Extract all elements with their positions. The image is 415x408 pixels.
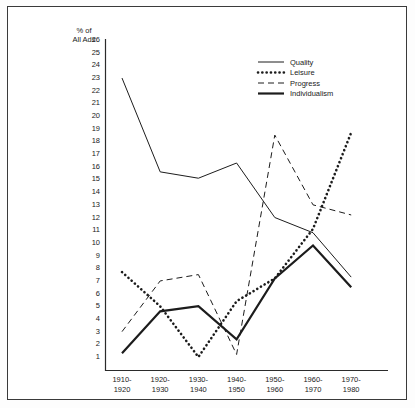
legend-label-leisure: Leisure bbox=[290, 68, 315, 77]
y-tick-label: 13 bbox=[84, 201, 100, 209]
y-tick-label: 23 bbox=[84, 74, 100, 82]
y-tick-label: 4 bbox=[84, 315, 100, 323]
y-tick-label: 9 bbox=[84, 252, 100, 260]
y-tick-label: 5 bbox=[84, 302, 100, 310]
y-tick-label: 26 bbox=[84, 36, 100, 44]
legend-swatches bbox=[258, 62, 284, 94]
y-tick-label: 19 bbox=[84, 125, 100, 133]
y-tick-label: 7 bbox=[84, 277, 100, 285]
y-tick-label: 21 bbox=[84, 99, 100, 107]
y-tick-label: 20 bbox=[84, 112, 100, 120]
y-tick-label: 3 bbox=[84, 328, 100, 336]
y-tick-label: 2 bbox=[84, 340, 100, 348]
chart-figure: % ofAll Ads 1234567891011121314151617181… bbox=[0, 0, 415, 408]
y-tick-label: 24 bbox=[84, 61, 100, 69]
y-tick-label: 8 bbox=[84, 264, 100, 272]
y-tick-label: 25 bbox=[84, 49, 100, 57]
y-tick-label: 18 bbox=[84, 137, 100, 145]
plot-area bbox=[0, 0, 415, 408]
y-tick-label: 11 bbox=[84, 226, 100, 234]
y-tick-label: 1 bbox=[84, 353, 100, 361]
y-tick-label: 14 bbox=[84, 188, 100, 196]
series-line-quality bbox=[122, 78, 351, 277]
series-line-progress bbox=[122, 135, 351, 354]
legend-label-quality: Quality bbox=[290, 58, 313, 67]
legend-label-individualism: Individualism bbox=[290, 89, 333, 98]
y-tick-label: 17 bbox=[84, 150, 100, 158]
y-tick-label: 12 bbox=[84, 214, 100, 222]
y-tick-label: 15 bbox=[84, 175, 100, 183]
y-tick-label: 22 bbox=[84, 87, 100, 95]
y-tick-label: 16 bbox=[84, 163, 100, 171]
legend-label-progress: Progress bbox=[290, 79, 320, 88]
series-lines bbox=[122, 78, 351, 357]
y-tick-label: 6 bbox=[84, 290, 100, 298]
series-line-individualism bbox=[122, 245, 351, 353]
x-tick-label: 1970-1980 bbox=[329, 375, 373, 394]
series-line-leisure bbox=[122, 133, 351, 357]
y-tick-label: 10 bbox=[84, 239, 100, 247]
